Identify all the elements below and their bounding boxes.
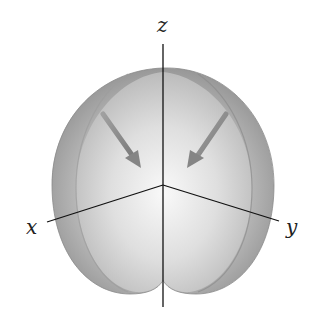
x-axis-label: x (26, 215, 37, 239)
y-axis-label: y (285, 215, 298, 239)
z-axis-label: z (156, 13, 168, 37)
surface-diagram: z x y (0, 0, 314, 318)
